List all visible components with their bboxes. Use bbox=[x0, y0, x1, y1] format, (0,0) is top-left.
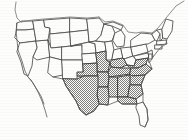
state-washington bbox=[17, 21, 34, 30]
state-mississippi bbox=[108, 77, 118, 97]
state-south-carolina bbox=[130, 74, 145, 85]
state-maine bbox=[162, 19, 173, 39]
state-texas bbox=[63, 76, 99, 115]
state-arizona bbox=[48, 57, 63, 77]
state-kentucky bbox=[110, 58, 127, 68]
state-colorado bbox=[62, 45, 83, 60]
state-delaware bbox=[149, 54, 152, 59]
state-georgia bbox=[128, 85, 143, 99]
state-kansas bbox=[82, 53, 97, 64]
state-oregon bbox=[15, 29, 36, 43]
state-new-york bbox=[131, 33, 155, 47]
us-map-figure: United States map with shaded region bbox=[0, 0, 188, 140]
border-canada-northwest bbox=[15, 2, 21, 22]
state-california bbox=[17, 41, 37, 76]
us-map-svg: United States map with shaded region bbox=[0, 0, 188, 140]
state-arkansas bbox=[97, 72, 109, 87]
state-wyoming bbox=[50, 32, 71, 48]
coast-baja bbox=[28, 77, 47, 117]
